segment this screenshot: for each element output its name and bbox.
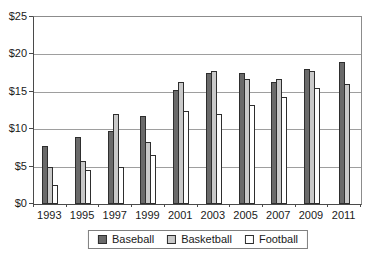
x-axis-label-1997: 1997 — [103, 209, 127, 221]
x-axis-label-1995: 1995 — [70, 209, 94, 221]
x-tick-3 — [131, 204, 132, 207]
x-axis-label-1999: 1999 — [135, 209, 159, 221]
x-tick-6 — [229, 204, 230, 207]
bar-group-2011 — [328, 17, 361, 204]
bar-group-1999 — [132, 17, 165, 204]
bar-football-2003 — [216, 114, 222, 204]
bar-group-1993 — [34, 17, 67, 204]
legend-swatch-football — [245, 235, 254, 244]
legend-label-basketball: Basketball — [181, 233, 232, 246]
legend-label-baseball: Baseball — [112, 233, 154, 246]
x-axis-label-1993: 1993 — [37, 209, 61, 221]
x-tick-1 — [66, 204, 67, 207]
legend: BaseballBasketballFootball — [88, 230, 308, 249]
bar-group-1997 — [99, 17, 132, 204]
x-axis-label-2007: 2007 — [266, 209, 290, 221]
x-tick-4 — [164, 204, 165, 207]
bar-group-1995 — [67, 17, 100, 204]
legend-label-football: Football — [259, 233, 298, 246]
y-axis-label-5: $5 — [0, 160, 27, 172]
x-tick-10 — [360, 204, 361, 207]
x-axis-label-2003: 2003 — [201, 209, 225, 221]
legend-item-football: Football — [245, 233, 298, 246]
legend-swatch-baseball — [98, 235, 107, 244]
bar-group-2007 — [263, 17, 296, 204]
bar-group-2001 — [165, 17, 198, 204]
bar-football-1995 — [85, 170, 91, 204]
y-tick-15 — [29, 91, 33, 92]
bar-group-2009 — [296, 17, 329, 204]
legend-swatch-basketball — [167, 235, 176, 244]
bar-basketball-2011 — [344, 84, 350, 204]
bar-football-1993 — [52, 185, 58, 204]
x-tick-7 — [262, 204, 263, 207]
bar-football-2007 — [281, 97, 287, 204]
plot-area — [33, 16, 362, 205]
x-tick-5 — [197, 204, 198, 207]
ticket-price-bar-chart: $0$5$10$15$20$25 19931995199719992001200… — [0, 0, 371, 257]
x-tick-8 — [295, 204, 296, 207]
y-axis-label-25: $25 — [0, 10, 27, 22]
bar-group-2003 — [198, 17, 231, 204]
bar-football-2005 — [249, 105, 255, 204]
y-axis-label-10: $10 — [0, 122, 27, 134]
x-axis-label-2009: 2009 — [299, 209, 323, 221]
y-axis-label-20: $20 — [0, 47, 27, 59]
y-axis-label-15: $15 — [0, 85, 27, 97]
y-tick-10 — [29, 128, 33, 129]
x-tick-0 — [33, 204, 34, 207]
x-tick-9 — [327, 204, 328, 207]
y-axis-label-0: $0 — [0, 197, 27, 209]
y-tick-25 — [29, 16, 33, 17]
x-axis-label-2011: 2011 — [332, 209, 356, 221]
x-tick-2 — [98, 204, 99, 207]
bar-football-2001 — [183, 111, 189, 205]
bar-football-2009 — [314, 88, 320, 204]
x-axis-label-2001: 2001 — [168, 209, 192, 221]
bar-football-1999 — [150, 155, 156, 204]
bar-football-1997 — [118, 167, 124, 204]
y-tick-5 — [29, 166, 33, 167]
legend-item-baseball: Baseball — [98, 233, 154, 246]
x-axis-label-2005: 2005 — [233, 209, 257, 221]
legend-item-basketball: Basketball — [167, 233, 232, 246]
y-tick-20 — [29, 53, 33, 54]
bar-group-2005 — [230, 17, 263, 204]
